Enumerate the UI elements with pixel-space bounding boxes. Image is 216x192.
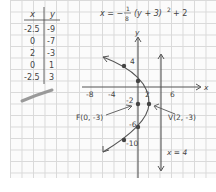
- xy-table: x y -2.5 -9 0 -7 2 -3 0 1 -2.5 3: [24, 7, 60, 84]
- focus-label: F(0, -3): [76, 113, 103, 122]
- equation: x = − 1 8 (y + 3) 2 + 2: [99, 5, 187, 22]
- table-cell: -9: [47, 25, 55, 34]
- table-cell: -3: [47, 49, 55, 58]
- equation-frac-num: 1: [126, 5, 130, 12]
- vertex-point: [147, 102, 151, 106]
- equation-exponent: 2: [167, 6, 171, 13]
- tick-y-neg10: -10: [126, 139, 138, 148]
- tick-x-6: 6: [170, 90, 175, 99]
- tick-x-neg4: -4: [108, 90, 116, 99]
- tick-y-4: 4: [130, 57, 135, 66]
- table-cell: 2: [30, 49, 35, 58]
- y-axis-label: y: [134, 28, 140, 37]
- tick-x-neg8: -8: [86, 90, 94, 99]
- directrix-label: x = 4: [166, 148, 187, 157]
- equation-tail: + 2: [173, 9, 187, 18]
- point-0-1: [136, 79, 140, 83]
- point-neg2.5-neg9: [122, 138, 126, 142]
- equation-lhs: x = −: [99, 9, 123, 18]
- tick-x-neg2: -2: [126, 96, 134, 105]
- pointer-stroke: [22, 90, 52, 101]
- table-cell: 0: [30, 37, 35, 46]
- equation-frac-den: 8: [125, 15, 129, 22]
- table-cell: -2.5: [24, 25, 40, 34]
- equation-rhs: (y + 3): [134, 9, 162, 18]
- table-cell: 1: [49, 61, 54, 70]
- focus-point: [136, 102, 140, 106]
- table-header-y: y: [49, 9, 56, 19]
- point-0-neg7: [136, 125, 140, 129]
- table-cell: 3: [49, 73, 54, 82]
- table-cell: -7: [47, 37, 55, 46]
- vertex-label: V(2, -3): [168, 113, 196, 122]
- table-header-x: x: [29, 9, 36, 19]
- x-axis-label: x: [203, 83, 209, 92]
- table-cell: -2.5: [24, 73, 40, 82]
- axes: y x: [82, 28, 209, 178]
- figure: x y -2.5 -9 0 -7 2 -3 0 1 -2.5 3 x = − 1…: [0, 0, 216, 192]
- table-cell: 0: [30, 61, 35, 70]
- point-neg2.5-3: [122, 64, 126, 68]
